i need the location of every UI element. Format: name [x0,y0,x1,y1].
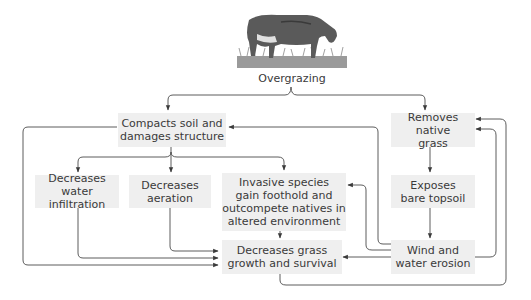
node-removes-native-grass: Removes native grass [391,113,475,147]
node-exposes-bare-topsoil: Exposes bare topsoil [391,175,475,208]
node-decreases-grass-growth: Decreases grass growth and survival [222,240,342,274]
node-exposes-bare-topsoil-text: Exposes bare topsoil [401,179,466,205]
node-decreases-water-infiltration: Decreases water infiltration [35,175,119,208]
node-decreases-aeration-text: Decreases aeration [141,179,198,205]
node-wind-water-erosion-text: Wind and water erosion [395,244,470,270]
node-wind-water-erosion: Wind and water erosion [391,240,475,274]
node-decreases-grass-growth-text: Decreases grass growth and survival [227,244,336,270]
node-compacts-soil-text: Compacts soil and damages structure [120,117,224,143]
node-invasive-species-text: Invasive species gain foothold and outco… [222,176,345,228]
node-invasive-species: Invasive species gain foothold and outco… [222,173,346,231]
node-removes-native-grass-text: Removes native grass [391,111,475,150]
node-compacts-soil: Compacts soil and damages structure [118,113,226,147]
node-decreases-water-infiltration-text: Decreases water infiltration [35,172,119,211]
node-decreases-aeration: Decreases aeration [129,175,211,208]
